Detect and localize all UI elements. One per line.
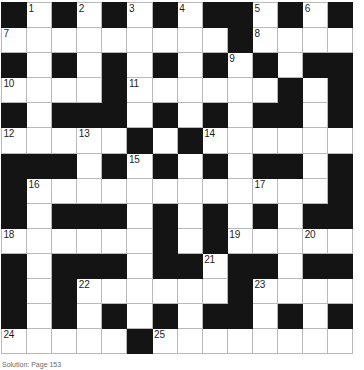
letter-cell[interactable]	[252, 329, 277, 354]
letter-cell[interactable]	[27, 253, 52, 278]
letter-cell[interactable]	[278, 279, 303, 304]
letter-cell[interactable]	[177, 203, 202, 228]
letter-cell[interactable]	[77, 178, 102, 203]
letter-cell[interactable]: 5	[252, 3, 277, 28]
crossword-grid[interactable]: 1234567891011121314151617181920212223242…	[1, 2, 353, 354]
letter-cell[interactable]	[52, 178, 77, 203]
letter-cell[interactable]	[152, 128, 177, 153]
letter-cell[interactable]	[102, 279, 127, 304]
letter-cell[interactable]	[278, 28, 303, 53]
letter-cell[interactable]	[102, 128, 127, 153]
letter-cell[interactable]	[152, 279, 177, 304]
letter-cell[interactable]	[127, 28, 152, 53]
letter-cell[interactable]: 10	[2, 78, 27, 103]
letter-cell[interactable]	[278, 329, 303, 354]
letter-cell[interactable]	[278, 178, 303, 203]
letter-cell[interactable]	[278, 228, 303, 253]
letter-cell[interactable]	[227, 178, 252, 203]
letter-cell[interactable]	[328, 279, 353, 304]
letter-cell[interactable]	[152, 78, 177, 103]
letter-cell[interactable]	[127, 53, 152, 78]
letter-cell[interactable]	[77, 53, 102, 78]
letter-cell[interactable]: 25	[152, 329, 177, 354]
letter-cell[interactable]	[77, 329, 102, 354]
letter-cell[interactable]	[27, 103, 52, 128]
letter-cell[interactable]	[127, 203, 152, 228]
letter-cell[interactable]	[52, 329, 77, 354]
letter-cell[interactable]	[52, 128, 77, 153]
letter-cell[interactable]	[27, 28, 52, 53]
letter-cell[interactable]	[52, 228, 77, 253]
letter-cell[interactable]	[102, 228, 127, 253]
letter-cell[interactable]	[52, 78, 77, 103]
letter-cell[interactable]: 18	[2, 228, 27, 253]
letter-cell[interactable]	[102, 28, 127, 53]
letter-cell[interactable]	[27, 279, 52, 304]
letter-cell[interactable]: 14	[202, 128, 227, 153]
letter-cell[interactable]	[77, 28, 102, 53]
letter-cell[interactable]	[252, 78, 277, 103]
letter-cell[interactable]: 3	[127, 3, 152, 28]
letter-cell[interactable]	[177, 178, 202, 203]
letter-cell[interactable]	[177, 228, 202, 253]
letter-cell[interactable]	[227, 78, 252, 103]
letter-cell[interactable]	[177, 304, 202, 329]
letter-cell[interactable]: 2	[77, 3, 102, 28]
letter-cell[interactable]: 17	[252, 178, 277, 203]
letter-cell[interactable]	[27, 203, 52, 228]
letter-cell[interactable]: 6	[303, 3, 328, 28]
letter-cell[interactable]	[303, 279, 328, 304]
letter-cell[interactable]: 21	[202, 253, 227, 278]
letter-cell[interactable]	[252, 228, 277, 253]
letter-cell[interactable]	[52, 28, 77, 53]
letter-cell[interactable]	[77, 304, 102, 329]
letter-cell[interactable]	[127, 304, 152, 329]
letter-cell[interactable]	[77, 153, 102, 178]
letter-cell[interactable]: 19	[227, 228, 252, 253]
letter-cell[interactable]	[252, 128, 277, 153]
letter-cell[interactable]: 8	[252, 28, 277, 53]
letter-cell[interactable]	[177, 153, 202, 178]
letter-cell[interactable]	[27, 304, 52, 329]
letter-cell[interactable]	[227, 203, 252, 228]
letter-cell[interactable]	[303, 329, 328, 354]
letter-cell[interactable]	[227, 128, 252, 153]
letter-cell[interactable]	[127, 253, 152, 278]
letter-cell[interactable]	[77, 78, 102, 103]
letter-cell[interactable]	[177, 103, 202, 128]
letter-cell[interactable]	[177, 279, 202, 304]
letter-cell[interactable]: 4	[177, 3, 202, 28]
letter-cell[interactable]	[303, 103, 328, 128]
letter-cell[interactable]	[152, 178, 177, 203]
letter-cell[interactable]: 16	[27, 178, 52, 203]
letter-cell[interactable]	[177, 28, 202, 53]
letter-cell[interactable]: 11	[127, 78, 152, 103]
letter-cell[interactable]	[278, 53, 303, 78]
letter-cell[interactable]	[102, 329, 127, 354]
letter-cell[interactable]	[27, 78, 52, 103]
letter-cell[interactable]	[177, 78, 202, 103]
letter-cell[interactable]	[177, 329, 202, 354]
letter-cell[interactable]	[202, 279, 227, 304]
letter-cell[interactable]: 1	[27, 3, 52, 28]
letter-cell[interactable]	[303, 28, 328, 53]
letter-cell[interactable]	[328, 128, 353, 153]
letter-cell[interactable]	[303, 128, 328, 153]
letter-cell[interactable]	[27, 128, 52, 153]
letter-cell[interactable]	[177, 53, 202, 78]
letter-cell[interactable]	[303, 178, 328, 203]
letter-cell[interactable]	[227, 153, 252, 178]
letter-cell[interactable]	[27, 228, 52, 253]
letter-cell[interactable]	[303, 153, 328, 178]
letter-cell[interactable]	[303, 78, 328, 103]
letter-cell[interactable]	[127, 103, 152, 128]
letter-cell[interactable]	[127, 228, 152, 253]
letter-cell[interactable]	[328, 228, 353, 253]
letter-cell[interactable]	[252, 304, 277, 329]
letter-cell[interactable]	[27, 53, 52, 78]
letter-cell[interactable]	[202, 78, 227, 103]
letter-cell[interactable]	[127, 279, 152, 304]
letter-cell[interactable]: 15	[127, 153, 152, 178]
letter-cell[interactable]	[152, 28, 177, 53]
letter-cell[interactable]: 23	[252, 279, 277, 304]
